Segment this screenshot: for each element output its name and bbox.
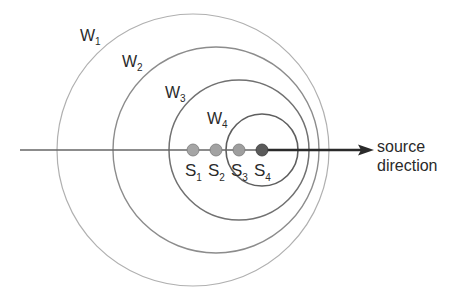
source-direction-line2: direction — [377, 157, 437, 174]
source-s4-dot — [256, 144, 268, 156]
wavefront-diagram: W1 W2 W3 W4 S1 S2 S3 S4 source direction — [0, 0, 476, 299]
source-s2-dot — [210, 144, 222, 156]
source-s3-dot — [233, 144, 245, 156]
source-direction-line1: source — [377, 138, 425, 155]
source-s2-label: S2 — [208, 161, 225, 183]
source-s3-label: S3 — [231, 161, 248, 183]
wavefront-labels: W1 W2 W3 W4 — [80, 27, 228, 130]
source-s4-label: S4 — [254, 161, 271, 183]
wavefront-w4-label: W4 — [207, 110, 228, 130]
source-s1-dot — [187, 144, 199, 156]
wavefront-w1-label: W1 — [80, 27, 101, 47]
wavefront-w3-label: W3 — [165, 84, 186, 104]
source-direction-label: source direction — [377, 138, 437, 174]
source-s1-label: S1 — [185, 161, 202, 183]
wavefront-w2-label: W2 — [122, 53, 143, 73]
